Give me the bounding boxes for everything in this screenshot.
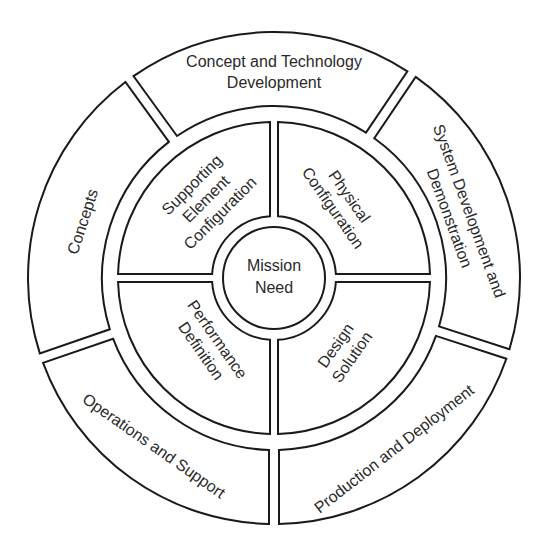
center-circle-group: [223, 227, 325, 329]
label-mission-need-line: Mission: [247, 257, 301, 274]
label-concept-technology-development-line: Development: [227, 74, 322, 91]
mission-need-circle: [223, 227, 325, 329]
label-mission-need-line: Need: [255, 279, 293, 296]
label-concept-technology-development-line: Concept and Technology: [186, 53, 362, 70]
lifecycle-wheel-diagram: Concept and TechnologyDevelopmentSystem …: [0, 0, 541, 558]
